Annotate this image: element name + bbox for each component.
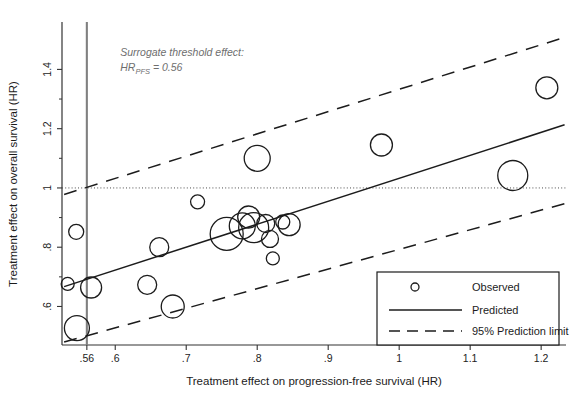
chart-figure: .56.6.7.8.911.11.2 .6.811.21.4 Surrogate…	[0, 0, 571, 402]
y-tick-label: .8	[41, 243, 53, 252]
y-tick-label: .6	[41, 302, 53, 311]
legend-label: Predicted	[472, 304, 518, 316]
annotation-hr-subscript: PFS	[135, 67, 150, 76]
y-tick-label: 1	[41, 185, 53, 191]
x-tick-label: 1.1	[463, 352, 478, 364]
chart-legend: ObservedPredicted95% Prediction limit	[377, 272, 569, 345]
x-tick-label: .6	[111, 352, 120, 364]
y-tick-label: 1.4	[41, 62, 53, 77]
x-tick-label: 1	[396, 352, 402, 364]
annotation-line-1: Surrogate threshold effect:	[120, 46, 244, 58]
y-tick-label: 1.2	[41, 121, 53, 136]
x-tick-label: .56	[80, 352, 95, 364]
x-axis-title: Treatment effect on progression-free sur…	[186, 375, 442, 387]
y-axis-title: Treatment effect on overall survival (HR…	[7, 81, 19, 287]
scatter-plot-canvas: .56.6.7.8.911.11.2 .6.811.21.4 Surrogate…	[0, 0, 571, 402]
x-tick-label: .9	[324, 352, 333, 364]
legend-label: Observed	[472, 281, 520, 293]
x-tick-label: 1.2	[534, 352, 549, 364]
annotation-hr-label: HR	[120, 61, 136, 73]
x-tick-label: .8	[253, 352, 262, 364]
legend-label: 95% Prediction limit	[472, 325, 569, 337]
x-tick-label: .7	[182, 352, 191, 364]
annotation-hr-value: = 0.56	[150, 61, 183, 73]
